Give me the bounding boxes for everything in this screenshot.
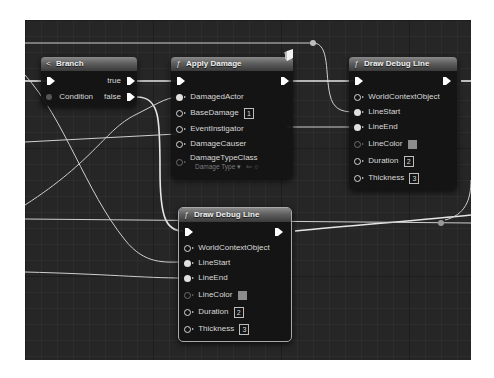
wire-eventinstigator	[25, 134, 177, 142]
exec-in-pin[interactable]	[188, 228, 193, 236]
damage-type-dropdown[interactable]: Damage Type ▾	[195, 163, 241, 170]
base-damage-pin[interactable]	[176, 110, 183, 117]
draw-debug-line-bottom-title: Draw Debug Line	[194, 210, 259, 219]
exec-in-pin[interactable]	[180, 77, 185, 85]
function-icon: ƒ	[354, 57, 364, 71]
draw-debug-line-top-title: Draw Debug Line	[364, 59, 429, 68]
world-context-pin[interactable]	[184, 245, 191, 252]
world-context-pin[interactable]	[354, 94, 361, 101]
thickness-label: Thickness	[198, 324, 234, 333]
line-color-pin[interactable]	[354, 141, 361, 148]
server-cube-icon	[284, 49, 294, 61]
exec-in-pin[interactable]	[358, 77, 363, 85]
apply-damage-title: Apply Damage	[186, 59, 242, 68]
thickness-input[interactable]: 3	[409, 173, 419, 184]
thickness-label: Thickness	[368, 173, 404, 182]
branch-node-header[interactable]: ˂Branch	[41, 57, 137, 71]
damaged-actor-label: DamagedActor	[190, 92, 243, 101]
thickness-pin[interactable]	[184, 326, 191, 333]
apply-damage-node[interactable]: ƒApply Damage DamagedActor BaseDamage 1 …	[171, 57, 293, 179]
false-label: false	[104, 92, 121, 101]
draw-debug-line-top-header[interactable]: ƒDraw Debug Line	[349, 57, 457, 71]
exec-out-pin[interactable]	[284, 77, 289, 85]
line-end-pin[interactable]	[184, 275, 191, 282]
reroute-knot-right	[438, 220, 444, 226]
wire-damagedactor	[25, 97, 177, 205]
line-end-label: LineEnd	[198, 273, 227, 282]
graph-canvas[interactable]: ˂Branch true Condition false ƒApply Dama…	[25, 20, 471, 360]
duration-pin[interactable]	[184, 309, 191, 316]
line-start-label: LineStart	[198, 258, 230, 267]
damage-causer-pin[interactable]	[176, 141, 183, 148]
base-damage-label: BaseDamage	[190, 108, 238, 117]
condition-pin[interactable]	[46, 94, 52, 100]
exec-in-pin[interactable]	[50, 77, 55, 85]
browse-icon[interactable]: ⇦ ○	[246, 163, 258, 170]
true-label: true	[107, 76, 121, 85]
line-color-swatch[interactable]	[408, 140, 417, 149]
line-start-pin[interactable]	[354, 109, 361, 116]
draw-debug-line-bottom-header[interactable]: ƒDraw Debug Line	[179, 208, 291, 222]
line-end-pin[interactable]	[354, 124, 361, 131]
base-damage-input[interactable]: 1	[244, 108, 254, 119]
branch-title: Branch	[56, 59, 84, 68]
damaged-actor-pin[interactable]	[176, 94, 183, 101]
condition-label: Condition	[59, 92, 93, 101]
branch-icon: ˂	[46, 57, 56, 71]
line-color-label: LineColor	[368, 139, 402, 148]
event-instigator-label: EventInstigator	[190, 124, 243, 133]
line-end-label: LineEnd	[368, 122, 397, 131]
line-color-pin[interactable]	[184, 292, 191, 299]
thickness-input[interactable]: 3	[239, 324, 249, 335]
damage-type-class-pin[interactable]	[176, 159, 183, 166]
duration-label: Duration	[368, 156, 398, 165]
true-exec-pin[interactable]	[130, 77, 135, 85]
duration-label: Duration	[198, 307, 228, 316]
exec-out-pin[interactable]	[278, 228, 283, 236]
function-icon: ƒ	[184, 208, 194, 222]
reroute-knot-top	[310, 40, 316, 46]
duration-pin[interactable]	[354, 158, 361, 165]
duration-input[interactable]: 2	[404, 156, 414, 167]
line-start-pin[interactable]	[184, 260, 191, 267]
function-icon: ƒ	[176, 57, 186, 71]
draw-debug-line-bottom-node[interactable]: ƒDraw Debug Line WorldContextObject Line…	[178, 207, 292, 342]
line-start-label: LineStart	[368, 107, 400, 116]
apply-damage-header[interactable]: ƒApply Damage	[171, 57, 293, 71]
false-exec-pin[interactable]	[130, 93, 135, 101]
world-context-label: WorldContextObject	[198, 243, 269, 252]
line-color-label: LineColor	[198, 290, 232, 299]
damage-causer-label: DamageCauser	[190, 139, 246, 148]
event-instigator-pin[interactable]	[176, 126, 183, 133]
line-color-swatch[interactable]	[238, 291, 247, 300]
branch-node[interactable]: ˂Branch true Condition false	[41, 57, 137, 106]
world-context-label: WorldContextObject	[368, 92, 439, 101]
draw-debug-line-top-node[interactable]: ƒDraw Debug Line WorldContextObject Line…	[349, 57, 457, 190]
duration-input[interactable]: 2	[234, 307, 244, 318]
wire-lineend-bottom	[25, 272, 183, 278]
wire-reroute-to-linestart	[313, 43, 354, 112]
thickness-pin[interactable]	[354, 175, 361, 182]
exec-out-pin[interactable]	[446, 77, 451, 85]
